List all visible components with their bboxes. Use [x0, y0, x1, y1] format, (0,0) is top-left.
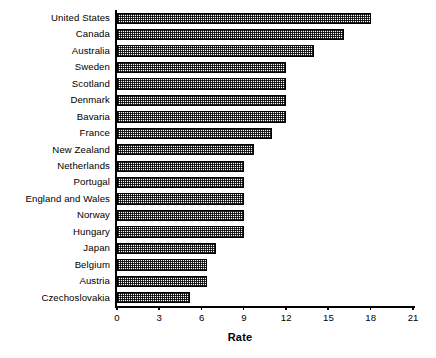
category-label: Portugal — [0, 174, 110, 190]
bar-row: Japan — [0, 240, 436, 256]
bar — [117, 78, 286, 89]
bar — [117, 292, 190, 303]
x-tick-label: 3 — [139, 312, 179, 323]
bar — [117, 210, 244, 221]
bar — [117, 276, 207, 287]
category-label: Hungary — [0, 224, 110, 240]
bar-row: Netherlands — [0, 158, 436, 174]
bar — [117, 144, 254, 155]
x-tick-mark — [201, 306, 203, 310]
bar-row: Austria — [0, 273, 436, 289]
bar — [117, 62, 286, 73]
category-label: Netherlands — [0, 158, 110, 174]
bar-row: Bavaria — [0, 109, 436, 125]
bar-row: France — [0, 125, 436, 141]
x-tick-mark — [327, 306, 329, 310]
x-tick-label: 9 — [224, 312, 264, 323]
bar — [117, 243, 216, 254]
category-label: Scotland — [0, 76, 110, 92]
x-tick-label: 0 — [97, 312, 137, 323]
category-label: Australia — [0, 43, 110, 59]
bar-row: Portugal — [0, 174, 436, 190]
category-label: Bavaria — [0, 109, 110, 125]
x-tick-label: 6 — [182, 312, 222, 323]
bar-row: Denmark — [0, 92, 436, 108]
bar — [117, 226, 244, 237]
category-label: Austria — [0, 273, 110, 289]
x-tick-mark — [370, 306, 372, 310]
bar — [117, 111, 286, 122]
x-axis-title: Rate — [0, 331, 436, 343]
bar — [117, 193, 244, 204]
x-tick-mark — [412, 306, 414, 310]
bar-chart: United StatesCanadaAustraliaSwedenScotla… — [0, 0, 436, 358]
x-axis-title-text: Rate — [228, 331, 253, 343]
bar-row: Hungary — [0, 224, 436, 240]
bar-row: Belgium — [0, 257, 436, 273]
category-label: Czechoslovakia — [0, 290, 110, 306]
bar — [117, 128, 272, 139]
x-tick-label: 18 — [351, 312, 391, 323]
bar — [117, 29, 344, 40]
bar-row: Scotland — [0, 76, 436, 92]
bar-row: Australia — [0, 43, 436, 59]
x-tick-label: 15 — [308, 312, 348, 323]
bar-row: United States — [0, 10, 436, 26]
bar-row: Sweden — [0, 59, 436, 75]
category-label: Belgium — [0, 257, 110, 273]
category-label: Japan — [0, 240, 110, 256]
category-label: Sweden — [0, 59, 110, 75]
x-axis-ticks: 036912151821 — [0, 306, 436, 332]
bar-row: New Zealand — [0, 142, 436, 158]
bar — [117, 45, 314, 56]
x-tick-mark — [285, 306, 287, 310]
x-tick-label: 12 — [266, 312, 306, 323]
bar-row: Norway — [0, 207, 436, 223]
bar-row: Czechoslovakia — [0, 290, 436, 306]
bar-rows-container: United StatesCanadaAustraliaSwedenScotla… — [0, 10, 436, 306]
x-tick-mark — [243, 306, 245, 310]
bar — [117, 259, 207, 270]
category-label: France — [0, 125, 110, 141]
x-tick-mark — [158, 306, 160, 310]
category-label: New Zealand — [0, 142, 110, 158]
category-label: Norway — [0, 207, 110, 223]
bar — [117, 95, 286, 106]
x-tick-mark — [116, 306, 118, 310]
bar-row: England and Wales — [0, 191, 436, 207]
category-label: Canada — [0, 26, 110, 42]
category-label: Denmark — [0, 92, 110, 108]
bar-row: Canada — [0, 26, 436, 42]
bar — [117, 13, 371, 24]
category-label: England and Wales — [0, 191, 110, 207]
category-label: United States — [0, 10, 110, 26]
bar — [117, 161, 244, 172]
bar — [117, 177, 244, 188]
x-tick-label: 21 — [393, 312, 433, 323]
